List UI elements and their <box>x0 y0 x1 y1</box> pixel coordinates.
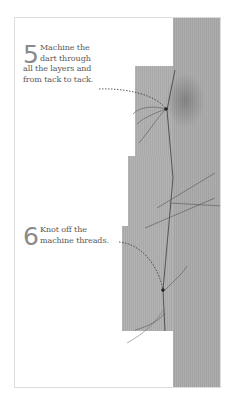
leader-line-step-5 <box>99 89 166 109</box>
caption-line: all the layers and <box>23 64 91 75</box>
caption-line: Machine the <box>40 43 90 54</box>
leader-line-step-6 <box>119 242 163 290</box>
caption-line: Knot off the <box>40 225 87 236</box>
caption-line: from tack to tack. <box>23 75 93 86</box>
marker-dot-step-5 <box>164 107 168 111</box>
caption-line: dart through <box>40 54 91 65</box>
illustration-frame: 5 Machine the dart through all the layer… <box>14 17 221 388</box>
caption-line: machine threads. <box>40 236 109 247</box>
marker-dot-step-6 <box>161 288 165 292</box>
step-number: 6 <box>23 224 39 249</box>
